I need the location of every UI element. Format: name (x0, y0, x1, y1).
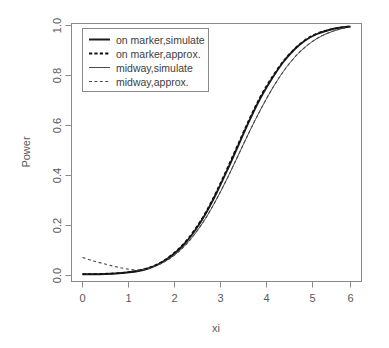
legend-label-midway-approx: midway,approx. (116, 76, 189, 88)
y-tick-label: 1.0 (51, 18, 63, 33)
legend-label-on-marker-approx: on marker,approx. (116, 48, 201, 60)
y-axis-ticks (66, 26, 72, 276)
x-axis-ticks (83, 282, 351, 288)
x-axis-title: xi (212, 322, 220, 334)
x-tick-label: 0 (79, 292, 85, 304)
y-tick-label: 0.4 (51, 168, 63, 183)
legend-label-on-marker-simulate: on marker,simulate (116, 34, 205, 46)
legend-label-midway-simulate: midway,simulate (116, 62, 193, 74)
x-tick-label: 6 (347, 292, 353, 304)
y-axis-title: Power (20, 136, 32, 168)
power-vs-xi-line-chart: 0.0 0.2 0.4 0.6 0.8 1.0 Power 0 1 2 3 4 … (0, 0, 389, 348)
x-tick-label: 3 (217, 292, 223, 304)
x-tick-label: 5 (309, 292, 315, 304)
y-tick-label: 0.0 (51, 268, 63, 283)
y-tick-label: 0.6 (51, 118, 63, 133)
y-axis-tick-labels: 0.0 0.2 0.4 0.6 0.8 1.0 (51, 18, 63, 283)
y-tick-label: 0.2 (51, 218, 63, 233)
chart-legend: on marker,simulate on marker,approx. mid… (83, 29, 209, 92)
chart-figure: 0.0 0.2 0.4 0.6 0.8 1.0 Power 0 1 2 3 4 … (0, 0, 389, 348)
x-tick-label: 1 (125, 292, 131, 304)
x-tick-label: 4 (263, 292, 269, 304)
x-axis-tick-labels: 0 1 2 3 4 5 6 (79, 292, 353, 304)
y-tick-label: 0.8 (51, 68, 63, 83)
x-tick-label: 2 (171, 292, 177, 304)
